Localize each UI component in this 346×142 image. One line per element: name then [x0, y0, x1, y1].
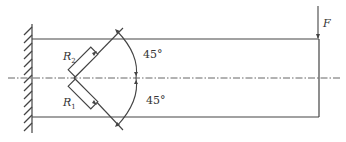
gauge-r1-label: R1 [62, 96, 76, 111]
cantilever-diagram: F R2 R1 45° 45° [0, 0, 346, 142]
angle-bottom-label: 45° [146, 94, 166, 107]
fixed-wall [24, 24, 32, 133]
gauge-axes [74, 28, 123, 130]
angle-top-label: 45° [143, 48, 163, 61]
arc-arrow-mid-top [134, 72, 138, 76]
angle-arc [117, 31, 137, 126]
arc-arrow-mid-bottom [134, 80, 138, 84]
force-label: F [322, 17, 331, 30]
gauge-r2-label: R2 [62, 50, 76, 65]
force-arrow [316, 6, 320, 39]
